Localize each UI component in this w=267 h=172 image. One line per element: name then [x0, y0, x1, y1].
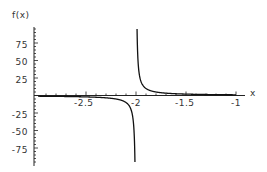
x-tick-label: -2 — [131, 98, 141, 108]
y-tick-label: 50 — [4, 57, 28, 67]
plot-area — [0, 0, 267, 172]
x-axis-label: x — [250, 88, 256, 98]
x-tick-label: -1.5 — [175, 98, 195, 108]
y-tick-label: 75 — [4, 40, 28, 50]
y-tick-label: -50 — [4, 127, 28, 137]
y-axis-label: f(x) — [12, 10, 30, 20]
y-tick-label: -75 — [4, 145, 28, 155]
x-tick-label: -1 — [231, 98, 241, 108]
y-tick-label: -25 — [4, 110, 28, 120]
curve-right-branch — [137, 29, 236, 95]
x-tick-label: -2.5 — [74, 98, 94, 108]
y-tick-label: 25 — [4, 75, 28, 85]
